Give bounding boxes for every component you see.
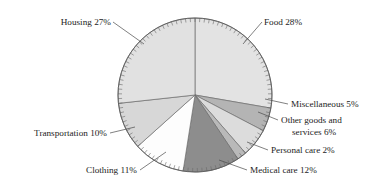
- pie-slice-housing: [118, 18, 195, 103]
- label-housing: Housing 27%: [61, 17, 112, 27]
- label-transportation: Transportation 10%: [34, 128, 107, 138]
- label-other-goods-line1: Other goods and: [281, 115, 342, 125]
- label-other-goods-line2: services 6%: [292, 127, 336, 137]
- pie-slices-group: [118, 18, 272, 172]
- label-clothing: Clothing 11%: [86, 165, 137, 175]
- leader-line-food: [243, 22, 262, 44]
- pie-chart-svg: Housing 27% Food 28% Miscellaneous 5% Ot…: [0, 0, 390, 182]
- label-personal-care: Personal care 2%: [271, 145, 335, 155]
- label-food: Food 28%: [264, 17, 302, 27]
- pie-chart-figure: Housing 27% Food 28% Miscellaneous 5% Ot…: [0, 0, 390, 182]
- label-miscellaneous: Miscellaneous 5%: [291, 99, 359, 109]
- pie-slice-food: [195, 18, 272, 108]
- label-medical-care: Medical care 12%: [250, 165, 317, 175]
- leader-line-housing: [113, 22, 144, 44]
